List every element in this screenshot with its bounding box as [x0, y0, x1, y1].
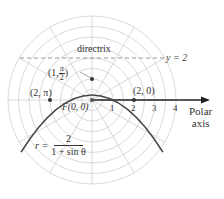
focus-point	[90, 98, 94, 102]
axis-arrow-icon	[201, 97, 210, 104]
equation-numerator: 2	[54, 134, 83, 146]
tick-3: 3	[152, 103, 157, 113]
tick-4: 4	[173, 103, 178, 113]
fraction-denominator: 2	[60, 74, 64, 82]
tick-2: 2	[131, 103, 136, 113]
polar-diagram	[0, 0, 224, 199]
point-label-2-pi: (2, π)	[30, 88, 52, 98]
directrix-label: directrix	[77, 44, 111, 54]
point-label-prefix: (1,	[48, 67, 59, 78]
leader-line	[80, 72, 91, 78]
directrix-equation: y = 2	[166, 53, 187, 63]
polar-axis-label: Polar axis	[189, 105, 212, 129]
focus-label: F(0, 0)	[62, 103, 88, 113]
point-2-pi	[48, 98, 52, 102]
point-2-0	[132, 98, 136, 102]
equation-fraction: 2 1 + sin θ	[51, 134, 86, 157]
equation-lhs: r =	[35, 141, 48, 151]
point-label-suffix: )	[65, 67, 68, 78]
point-label-1-pi-over-2: (1,π2)	[48, 65, 68, 82]
point-label-2-0: (2, 0)	[133, 86, 155, 96]
polar-axis-label-line1: Polar	[189, 105, 212, 117]
polar-axis-label-line2: axis	[189, 117, 212, 129]
equation-denominator: 1 + sin θ	[51, 146, 86, 157]
equation-label: r = 2 1 + sin θ	[35, 134, 86, 157]
tick-1: 1	[110, 103, 115, 113]
